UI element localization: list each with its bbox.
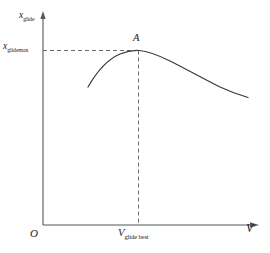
x-axis-label: V (246, 222, 253, 234)
origin-label: O (30, 228, 38, 239)
x-tick-label-subscript: glide best (124, 233, 148, 240)
y-axis-label-subscript: glide (23, 16, 34, 22)
y-tick-label-subscript: glidemax (7, 47, 28, 53)
y-tick-label: xglidemax (3, 42, 28, 52)
point-a-label: A (133, 33, 139, 44)
x-tick-label: Vglide best (118, 228, 149, 239)
glide-performance-figure: xglide xglidemax V Vglide best O A (0, 0, 270, 253)
y-axis-label: xglide (19, 11, 34, 21)
glide-ratio-curve (88, 50, 248, 97)
y-axis-arrowhead (40, 11, 45, 19)
